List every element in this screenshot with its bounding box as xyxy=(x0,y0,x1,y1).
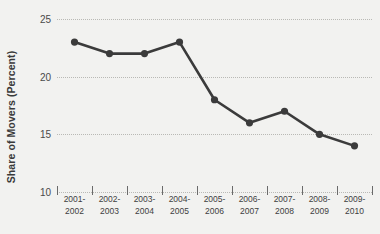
x-axis-tick-mark xyxy=(372,186,373,195)
x-axis-category-line: 2006- xyxy=(232,194,267,206)
x-axis-category-label: 2009-2010 xyxy=(337,194,372,217)
y-axis-tick-label: 20 xyxy=(13,71,51,82)
x-axis-category-label: 2002-2003 xyxy=(92,194,127,217)
data-point[interactable] xyxy=(211,96,218,103)
x-axis-category-line: 2006 xyxy=(197,206,232,218)
x-axis: 2001-20022002-20032003-20042004-20052005… xyxy=(57,192,372,234)
data-point[interactable] xyxy=(246,119,253,126)
data-point[interactable] xyxy=(316,131,323,138)
x-axis-category-label: 2001-2002 xyxy=(57,194,92,217)
data-point[interactable] xyxy=(176,38,183,45)
data-series xyxy=(57,19,372,192)
x-axis-category-line: 2002 xyxy=(57,206,92,218)
y-axis-title: Share of Movers (Percent) xyxy=(0,0,22,234)
x-axis-category-line: 2009- xyxy=(337,194,372,206)
data-point[interactable] xyxy=(281,108,288,115)
data-point[interactable] xyxy=(141,50,148,57)
x-axis-category-line: 2001- xyxy=(57,194,92,206)
y-axis-tick-label: 25 xyxy=(13,14,51,25)
x-axis-category-line: 2003- xyxy=(127,194,162,206)
y-axis-tick-label: 15 xyxy=(13,129,51,140)
x-axis-category-line: 2005- xyxy=(197,194,232,206)
x-axis-category-line: 2010 xyxy=(337,206,372,218)
data-point[interactable] xyxy=(351,142,358,149)
x-axis-category-line: 2005 xyxy=(162,206,197,218)
x-axis-category-label: 2007-2008 xyxy=(267,194,302,217)
data-point[interactable] xyxy=(71,38,78,45)
y-axis-tick-label: 10 xyxy=(13,187,51,198)
line-chart: Share of Movers (Percent) 10152025 2001-… xyxy=(0,0,380,234)
x-axis-category-line: 2004 xyxy=(127,206,162,218)
x-axis-category-line: 2007- xyxy=(267,194,302,206)
data-point[interactable] xyxy=(106,50,113,57)
x-axis-category-label: 2003-2004 xyxy=(127,194,162,217)
x-axis-category-line: 2007 xyxy=(232,206,267,218)
series-line xyxy=(75,42,355,146)
x-axis-category-line: 2008 xyxy=(267,206,302,218)
x-axis-category-line: 2009 xyxy=(302,206,337,218)
x-axis-category-line: 2002- xyxy=(92,194,127,206)
x-axis-category-label: 2005-2006 xyxy=(197,194,232,217)
x-axis-category-label: 2008-2009 xyxy=(302,194,337,217)
x-axis-category-line: 2008- xyxy=(302,194,337,206)
x-axis-category-line: 2004- xyxy=(162,194,197,206)
x-axis-category-line: 2003 xyxy=(92,206,127,218)
x-axis-category-label: 2004-2005 xyxy=(162,194,197,217)
x-axis-category-label: 2006-2007 xyxy=(232,194,267,217)
plot-area: 10152025 xyxy=(57,19,372,192)
